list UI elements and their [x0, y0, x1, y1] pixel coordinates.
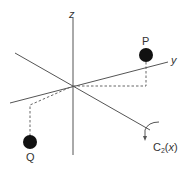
rotation-label-c: C — [153, 141, 161, 153]
rotation-label: C2(x) — [153, 141, 178, 154]
q-projection-line — [30, 86, 73, 136]
atom-q — [23, 135, 37, 149]
symmetry-diagram: z y P Q C2(x) — [0, 0, 193, 170]
rotation-arrow-icon — [145, 122, 159, 138]
x-axis — [15, 53, 150, 130]
rotation-arrowhead-icon — [143, 136, 147, 141]
atom-p-label: P — [142, 35, 149, 47]
p-projection-line — [73, 62, 146, 86]
atom-p — [139, 48, 153, 62]
atom-q-label: Q — [26, 151, 35, 163]
y-axis-label: y — [170, 54, 178, 66]
y-axis — [10, 62, 168, 103]
z-axis-label: z — [68, 8, 75, 20]
rotation-label-close-paren: ) — [174, 141, 178, 153]
